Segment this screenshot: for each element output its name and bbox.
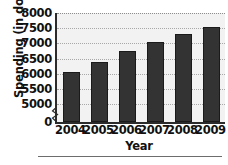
plot-area [55,13,225,122]
y-tick-label-5500: 5500 [16,84,52,94]
x-tick-label-2009: 2009 [195,124,223,137]
y-tick-label-6500: 6500 [16,54,52,64]
axis-break-zigzag-icon [51,106,60,119]
x-tick-label-2006: 2006 [111,124,139,137]
y-tick-label-8000: 8000 [16,8,52,18]
x-tick-label-2004: 2004 [55,124,83,137]
y-tick-label-7000: 7000 [16,38,52,48]
bar-2007 [147,42,164,122]
x-tick-label-2007: 2007 [139,124,167,137]
y-tick-label-6000: 6000 [16,69,52,79]
bar-series [57,13,225,122]
bar-2008 [175,34,192,122]
y-axis-tick-labels: 80007500700065006000550050000 [16,0,52,140]
x-tick-label-2008: 2008 [167,124,195,137]
y-tick-label-7500: 7500 [16,23,52,33]
x-axis-title: Year [55,139,223,153]
bar-2005 [91,62,108,122]
bar-2004 [63,72,80,122]
x-axis-tick-labels: 200420052006200720082009 [55,124,223,138]
bar-2009 [203,27,220,122]
bar-chart-figure: Spending (in dollars) 800075007000650060… [0,0,228,165]
bar-2006 [119,51,136,122]
page-divider-rule [38,156,222,157]
x-tick-label-2005: 2005 [83,124,111,137]
y-tick-label-0: 0 [16,117,52,127]
y-tick-label-5000: 5000 [16,99,52,109]
